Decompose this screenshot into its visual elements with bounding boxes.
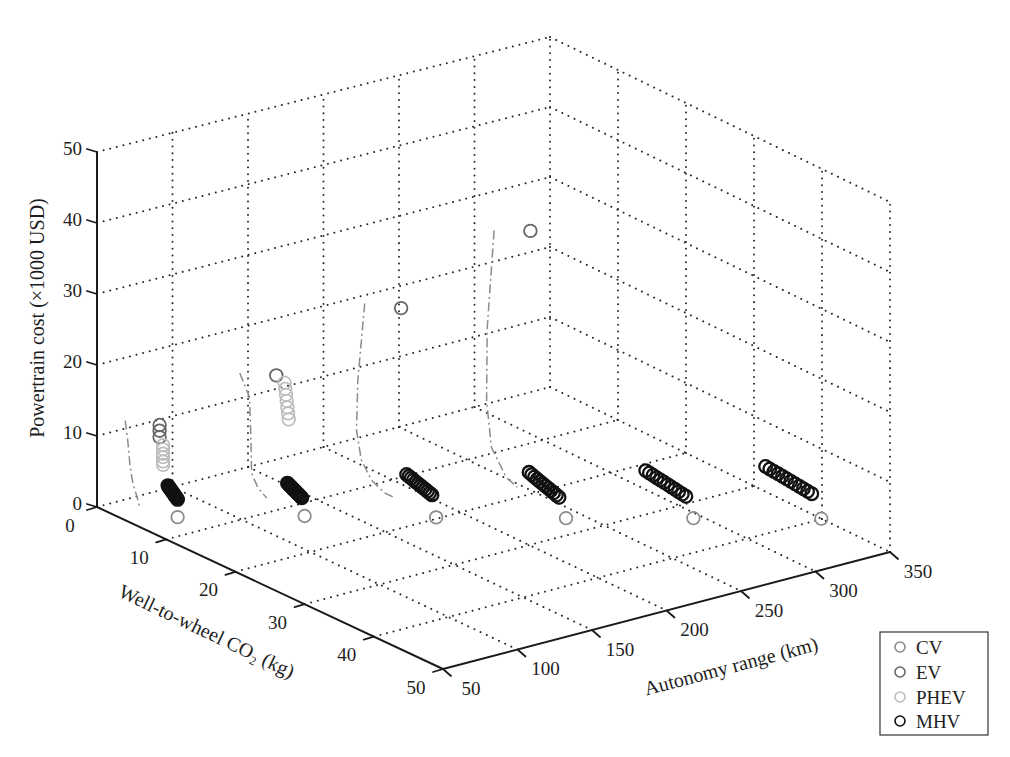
floor-grid-line — [305, 486, 754, 604]
data-point-cv — [560, 512, 573, 525]
y-tick-label: 20 — [199, 579, 218, 600]
x-tick-label: 50 — [462, 678, 481, 699]
y-tick — [295, 604, 305, 607]
z-tick-label: 20 — [63, 351, 82, 372]
back-wall-grid-line — [97, 247, 550, 365]
chart-3d-scatter: 0102030405001020304050501001502002503003… — [0, 0, 1010, 757]
z-tick — [87, 433, 97, 436]
z-tick — [87, 291, 97, 294]
legend: CV EV PHEV MHV — [880, 632, 988, 735]
floor-grid-line — [324, 447, 667, 611]
z-tick-label: 0 — [73, 493, 83, 514]
data-point-cv — [171, 511, 184, 524]
dash-dot-curve — [357, 304, 394, 498]
x-tick-label: 200 — [680, 619, 709, 640]
y-tick-label: 40 — [337, 644, 356, 665]
y-tick — [87, 507, 97, 510]
floor-grid-line — [166, 420, 618, 539]
legend-label-ev: EV — [916, 662, 942, 683]
x-tick — [667, 611, 675, 618]
back-wall-grid-line — [97, 37, 550, 152]
x-axis-title: Autonomy range (km) — [642, 633, 821, 701]
x-tick — [592, 630, 600, 637]
dash-dot-curve — [125, 421, 140, 508]
y-tick-label: 0 — [65, 515, 75, 536]
data-point-cv — [687, 512, 700, 525]
y-tick — [225, 572, 235, 575]
z-tick — [87, 362, 97, 365]
x-tick-label: 350 — [904, 561, 933, 582]
side-wall-grid-line — [550, 247, 890, 412]
x-tick — [816, 572, 824, 579]
z-tick-label: 30 — [63, 280, 82, 301]
legend-label-phev: PHEV — [916, 687, 966, 708]
side-wall-grid-line — [550, 177, 890, 342]
side-wall-grid-line — [550, 317, 890, 482]
grid-lines — [97, 37, 890, 650]
y-tick — [156, 539, 166, 542]
x-tick-label: 100 — [531, 658, 560, 679]
y-tick-label: 50 — [407, 677, 426, 698]
y-tick — [433, 669, 443, 672]
data-point-cv — [298, 510, 311, 523]
back-wall-grid-line — [97, 317, 550, 436]
side-wall-grid-line — [550, 37, 890, 202]
x-tick-label: 250 — [755, 600, 784, 621]
y-tick — [364, 637, 374, 640]
floor-grid-line — [235, 453, 686, 572]
x-tick — [741, 591, 749, 598]
dash-dot-curve — [240, 373, 267, 498]
z-tick — [87, 149, 97, 152]
floor-grid-line — [475, 407, 816, 572]
data-point-cv — [430, 511, 443, 524]
side-wall-grid-line — [550, 107, 890, 272]
floor-grid-line — [550, 387, 890, 552]
data-point-ev — [524, 225, 537, 238]
z-tick-label: 40 — [63, 209, 82, 230]
legend-label-mhv: MHV — [916, 711, 961, 732]
dash-dot-curves — [125, 231, 517, 508]
z-axis-title: Powertrain cost (×1000 USD) — [26, 198, 49, 438]
x-tick — [518, 650, 526, 657]
x-tick-label: 150 — [606, 639, 635, 660]
back-wall-grid-line — [97, 107, 550, 223]
y-tick-label: 10 — [130, 547, 149, 568]
z-tick-label: 10 — [63, 422, 82, 443]
x-tick — [890, 552, 898, 559]
z-tick-label: 50 — [63, 138, 82, 159]
y-tick-label: 30 — [268, 612, 287, 633]
figure: 0102030405001020304050501001502002503003… — [0, 0, 1010, 757]
z-tick — [87, 220, 97, 223]
data-point-ev — [395, 302, 408, 315]
legend-label-cv: CV — [916, 637, 943, 658]
x-tick-label: 300 — [829, 580, 858, 601]
x-tick — [443, 669, 451, 676]
data-point-ev — [270, 369, 283, 382]
dash-dot-curve — [487, 231, 518, 488]
y-axis-line — [97, 507, 443, 669]
